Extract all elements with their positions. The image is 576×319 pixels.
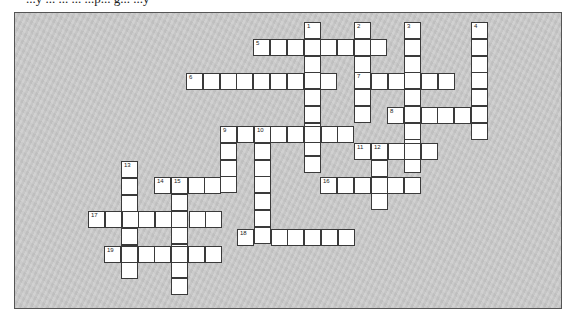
letter-input[interactable]: [472, 107, 487, 122]
crossword-cell[interactable]: [270, 126, 287, 143]
letter-input[interactable]: [472, 90, 487, 105]
crossword-cell[interactable]: [121, 195, 138, 212]
crossword-cell[interactable]: [387, 177, 404, 194]
crossword-cell[interactable]: [203, 73, 220, 90]
letter-input[interactable]: [405, 107, 420, 122]
letter-input[interactable]: [472, 124, 487, 139]
letter-input[interactable]: [472, 40, 487, 55]
crossword-cell[interactable]: [121, 246, 138, 263]
letter-input[interactable]: [455, 108, 470, 123]
crossword-cell[interactable]: [220, 160, 237, 177]
crossword-cell[interactable]: [287, 126, 304, 143]
letter-input[interactable]: [237, 74, 252, 89]
letter-input[interactable]: [355, 40, 370, 55]
letter-input[interactable]: [221, 161, 236, 176]
crossword-cell[interactable]: [254, 193, 271, 210]
letter-input[interactable]: [254, 40, 269, 55]
letter-input[interactable]: [355, 23, 370, 38]
letter-input[interactable]: [155, 247, 170, 262]
letter-input[interactable]: [355, 107, 370, 122]
crossword-cell[interactable]: [337, 39, 354, 56]
letter-input[interactable]: [172, 279, 187, 294]
letter-input[interactable]: [255, 144, 270, 159]
crossword-cell[interactable]: [321, 126, 338, 143]
crossword-cell[interactable]: [404, 39, 421, 56]
letter-input[interactable]: [255, 194, 270, 209]
crossword-cell[interactable]: [354, 177, 371, 194]
letter-input[interactable]: [172, 195, 187, 210]
crossword-cell[interactable]: [471, 106, 488, 123]
letter-input[interactable]: [405, 40, 420, 55]
crossword-cell[interactable]: [404, 106, 421, 123]
crossword-cell[interactable]: [354, 89, 371, 106]
letter-input[interactable]: [422, 108, 437, 123]
crossword-cell[interactable]: [155, 211, 172, 228]
crossword-cell[interactable]: [370, 39, 387, 56]
letter-input[interactable]: [355, 57, 370, 72]
crossword-cell[interactable]: [237, 126, 254, 143]
crossword-cell[interactable]: [354, 39, 371, 56]
letter-input[interactable]: [405, 73, 420, 88]
crossword-cell[interactable]: 8: [387, 107, 404, 124]
letter-input[interactable]: [372, 144, 387, 159]
letter-input[interactable]: [322, 127, 337, 142]
crossword-cell[interactable]: [171, 227, 188, 244]
crossword-cell[interactable]: 13: [121, 161, 138, 178]
crossword-cell[interactable]: [421, 73, 438, 90]
letter-input[interactable]: [156, 212, 171, 227]
crossword-cell[interactable]: [138, 211, 155, 228]
letter-input[interactable]: [305, 157, 320, 172]
letter-input[interactable]: [122, 229, 137, 244]
crossword-cell[interactable]: [254, 210, 271, 227]
letter-input[interactable]: [355, 144, 370, 159]
crossword-cell[interactable]: [471, 89, 488, 106]
letter-input[interactable]: [405, 57, 420, 72]
letter-input[interactable]: [405, 124, 420, 139]
crossword-cell[interactable]: 5: [253, 39, 270, 56]
crossword-cell[interactable]: [320, 73, 337, 90]
crossword-cell[interactable]: [220, 176, 237, 193]
letter-input[interactable]: [321, 178, 336, 193]
letter-input[interactable]: [271, 74, 286, 89]
crossword-cell[interactable]: 15: [171, 177, 188, 194]
crossword-cell[interactable]: [253, 73, 270, 90]
crossword-cell[interactable]: [205, 211, 222, 228]
crossword-cell[interactable]: [304, 56, 321, 73]
crossword-cell[interactable]: 14: [154, 177, 171, 194]
letter-input[interactable]: [190, 212, 205, 227]
crossword-cell[interactable]: [105, 211, 122, 228]
letter-input[interactable]: [305, 73, 320, 88]
letter-input[interactable]: [405, 144, 420, 159]
letter-input[interactable]: [405, 23, 420, 38]
crossword-cell[interactable]: [287, 39, 304, 56]
crossword-cell[interactable]: 7: [354, 72, 371, 89]
letter-input[interactable]: [189, 178, 204, 193]
letter-input[interactable]: [371, 40, 386, 55]
crossword-cell[interactable]: [404, 177, 421, 194]
crossword-cell[interactable]: [254, 143, 271, 160]
letter-input[interactable]: [439, 74, 454, 89]
letter-input[interactable]: [405, 178, 420, 193]
crossword-cell[interactable]: [471, 39, 488, 56]
crossword-cell[interactable]: [121, 178, 138, 195]
letter-input[interactable]: [139, 212, 154, 227]
letter-input[interactable]: [288, 230, 303, 245]
letter-input[interactable]: [388, 178, 403, 193]
letter-input[interactable]: [422, 74, 437, 89]
letter-input[interactable]: [172, 228, 187, 243]
crossword-cell[interactable]: [254, 176, 271, 193]
crossword-cell[interactable]: [421, 107, 438, 124]
letter-input[interactable]: [355, 90, 370, 105]
crossword-cell[interactable]: [171, 261, 188, 278]
crossword-cell[interactable]: [189, 211, 206, 228]
letter-input[interactable]: [338, 127, 353, 142]
letter-input[interactable]: [305, 57, 320, 72]
crossword-cell[interactable]: [138, 246, 155, 263]
letter-input[interactable]: [355, 178, 370, 193]
letter-input[interactable]: [305, 40, 320, 55]
crossword-cell[interactable]: [454, 107, 471, 124]
letter-input[interactable]: [221, 127, 236, 142]
letter-input[interactable]: [405, 90, 420, 105]
crossword-cell[interactable]: [371, 193, 388, 210]
crossword-cell[interactable]: 2: [354, 22, 371, 39]
